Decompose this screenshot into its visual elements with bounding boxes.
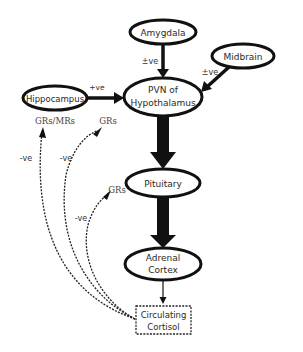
node-adrenal-cortex: Adrenal Cortex <box>125 248 201 280</box>
edge-hippocampus-to-pvn <box>87 92 124 104</box>
label-amygdala-pvn: ±ve <box>142 57 158 66</box>
node-pituitary: Pituitary <box>126 169 200 197</box>
edge-adrenal-to-cortisol <box>160 280 167 304</box>
node-pvn-hypothalamus: PVN of Hypothalamus <box>124 78 202 116</box>
node-amygdala: Amygdala <box>130 20 196 44</box>
label-feedback-hippocampus-inner: -ve <box>60 154 72 163</box>
node-cortisol-label-line1: Circulating <box>141 310 187 320</box>
node-cortisol-label-line2: Cortisol <box>147 322 179 332</box>
node-pvn-label-line2: Hypothalamus <box>130 98 196 108</box>
feedback-curve-hippocampus-outer <box>40 132 135 319</box>
node-midbrain-label: Midbrain <box>223 52 262 62</box>
node-pituitary-label: Pituitary <box>144 179 182 189</box>
node-midbrain: Midbrain <box>212 44 274 68</box>
feedback-curves <box>40 131 135 319</box>
feedback-curve-hippocampus-inner <box>64 131 135 319</box>
edge-amygdala-to-pvn <box>157 44 169 78</box>
label-midbrain-pvn: ±ve <box>202 68 218 77</box>
edge-pituitary-to-adrenal <box>150 197 176 248</box>
node-pvn-label-line1: PVN of <box>148 85 179 95</box>
node-hippocampus: Hippocampus <box>23 86 87 110</box>
receptor-label-hippocampus: GRs/MRs <box>35 116 75 126</box>
edge-pvn-to-pituitary <box>150 116 176 169</box>
arrowhead-hippocampus-inner <box>93 127 102 137</box>
node-adrenal-label-line1: Adrenal <box>146 253 180 263</box>
label-hippocampus-pvn: +ve <box>89 83 105 92</box>
hpa-axis-diagram: ±ve ±ve +ve -ve -ve -ve GRs/MRs GRs GRs <box>0 0 303 352</box>
node-hippocampus-label: Hippocampus <box>26 94 85 104</box>
label-feedback-hippocampus-outer: -ve <box>20 154 32 163</box>
node-circulating-cortisol: Circulating Cortisol <box>136 306 191 334</box>
arrowhead-hippocampus-outer <box>39 127 46 138</box>
label-feedback-pituitary: -ve <box>75 214 87 223</box>
receptor-label-pvn: GRs <box>99 116 117 126</box>
node-adrenal-label-line2: Cortex <box>148 265 178 275</box>
receptor-label-pituitary: GRs <box>108 185 126 195</box>
node-amygdala-label: Amygdala <box>140 28 185 38</box>
